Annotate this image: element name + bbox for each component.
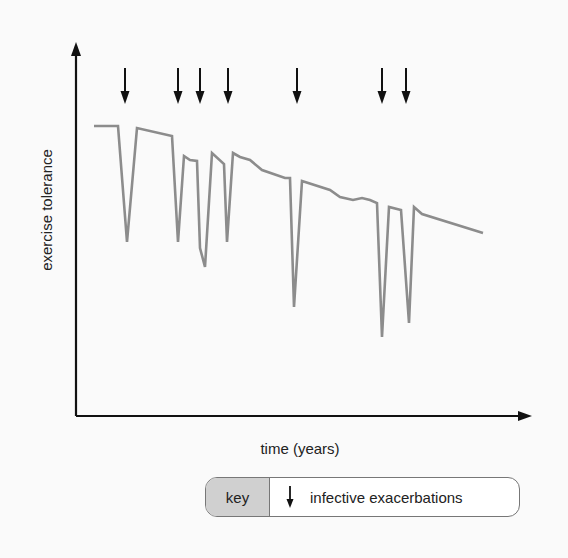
legend-title: key [206, 478, 270, 516]
down-arrow-icon [174, 91, 183, 104]
x-axis-arrowhead [518, 411, 532, 421]
x-axis-label: time (years) [260, 440, 339, 457]
down-arrow-icon [270, 478, 310, 516]
y-axis-arrowhead [71, 42, 81, 56]
y-axis-label: exercise tolerance [38, 149, 55, 271]
down-arrow-icon [121, 91, 130, 104]
exercise-tolerance-line [94, 126, 483, 337]
legend-entry-label: infective exacerbations [310, 478, 463, 516]
down-arrow-icon [293, 91, 302, 104]
chart-canvas [0, 0, 568, 558]
down-arrow-icon [402, 91, 411, 104]
exacerbation-arrows [121, 68, 411, 104]
down-arrow-icon [224, 91, 233, 104]
legend-key: key infective exacerbations [205, 477, 520, 517]
down-arrow-icon [378, 91, 387, 104]
down-arrow-icon [196, 91, 205, 104]
